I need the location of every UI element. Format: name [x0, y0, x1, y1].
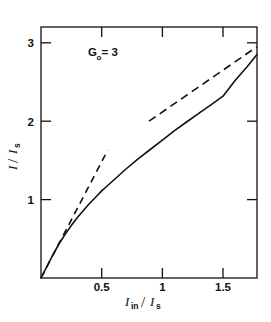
x-axis-title: I in / I s: [124, 294, 161, 311]
x-axis-title-separator: /: [141, 294, 146, 310]
x-axis-title-denominator-subscript: s: [156, 301, 161, 311]
x-axis-title-numerator: I: [124, 294, 130, 309]
figure-container: 0.5 1 1.5 1 2 3 G o = 3 I / I s I in: [0, 0, 271, 322]
x-axis-title-denominator: I: [149, 294, 155, 309]
chart-svg: 0.5 1 1.5 1 2 3 G o = 3 I / I s I in: [0, 0, 271, 322]
x-tick-label-1: 1: [159, 281, 166, 293]
y-tick-label-1: 2: [28, 116, 34, 128]
x-axis-title-numerator-subscript: in: [131, 301, 139, 311]
y-axis-title: I / I s: [5, 143, 22, 171]
y-axis-title-denominator: I: [5, 149, 20, 155]
y-tick-label-0: 1: [28, 194, 35, 206]
annotation-gain-value: = 3: [102, 46, 118, 58]
y-tick-label-2: 3: [28, 37, 34, 49]
plot-frame: [41, 27, 257, 278]
y-axis-title-denominator-subscript: s: [12, 143, 22, 148]
x-tick-label-2: 1.5: [215, 281, 232, 293]
y-axis-title-separator: /: [5, 158, 21, 163]
x-tick-label-0: 0.5: [94, 281, 111, 293]
y-axis-title-numerator: I: [5, 165, 20, 171]
